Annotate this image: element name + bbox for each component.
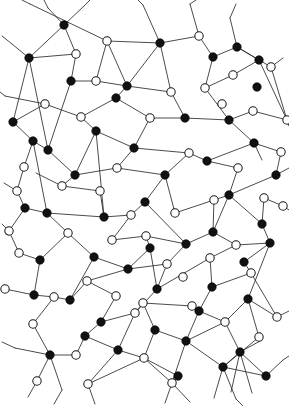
open-node [255, 333, 263, 341]
open-node [1, 285, 9, 293]
filled-node [36, 256, 44, 264]
filled-node [30, 291, 38, 299]
open-node [201, 84, 209, 92]
filled-node [81, 332, 89, 340]
filled-node [146, 244, 154, 252]
open-node [229, 71, 237, 79]
figure-root [0, 0, 289, 406]
filled-node [219, 363, 227, 371]
open-node [131, 309, 139, 317]
open-node [13, 187, 21, 195]
filled-node [203, 157, 211, 165]
open-node [249, 107, 257, 115]
open-node [188, 302, 196, 310]
filled-node [240, 258, 248, 266]
open-node [185, 149, 193, 157]
open-node [163, 260, 171, 268]
filled-node [181, 114, 189, 122]
open-node [15, 249, 23, 257]
filled-node [255, 56, 263, 64]
filled-node [151, 326, 159, 334]
open-node [64, 229, 72, 237]
open-node [247, 269, 255, 277]
filled-node [262, 372, 270, 380]
filled-node [174, 372, 182, 380]
filled-node [123, 82, 131, 90]
open-node [29, 320, 37, 328]
open-node [218, 100, 226, 108]
open-node [58, 182, 66, 190]
filled-node [29, 137, 37, 145]
open-node [167, 88, 175, 96]
open-node [103, 37, 111, 45]
open-node [279, 202, 287, 210]
filled-node [253, 83, 261, 91]
open-node [139, 299, 147, 307]
open-node [146, 114, 154, 122]
open-node [260, 194, 268, 202]
filled-node [182, 240, 190, 248]
filled-node [209, 53, 217, 61]
open-node [77, 113, 85, 121]
filled-node [66, 296, 74, 304]
open-node [283, 116, 289, 124]
filled-node [21, 204, 29, 212]
open-node [20, 163, 28, 171]
filled-node [100, 213, 108, 221]
filled-node [195, 307, 203, 315]
open-node [267, 63, 275, 71]
filled-node [266, 239, 274, 247]
filled-node [141, 198, 149, 206]
filled-node [161, 171, 169, 179]
open-node [206, 254, 214, 262]
open-node [232, 241, 240, 249]
filled-node [156, 39, 164, 47]
filled-node [182, 337, 190, 345]
open-node [221, 318, 229, 326]
open-node [83, 277, 91, 285]
filled-node [90, 253, 98, 261]
open-node [277, 148, 285, 156]
filled-node [97, 318, 105, 326]
open-node [127, 211, 135, 219]
filled-node [46, 351, 54, 359]
filled-node [9, 118, 17, 126]
open-node [112, 292, 120, 300]
open-node [84, 380, 92, 388]
filled-node [43, 209, 51, 217]
open-node [273, 313, 281, 321]
filled-node [236, 348, 244, 356]
open-node [195, 32, 203, 40]
open-node [234, 164, 242, 172]
filled-node [153, 285, 161, 293]
open-node [41, 100, 49, 108]
open-node [33, 377, 41, 385]
open-node [113, 164, 121, 172]
open-node [210, 196, 218, 204]
open-node [50, 293, 58, 301]
filled-node [124, 265, 132, 273]
filled-node [244, 295, 252, 303]
filled-node [25, 54, 33, 62]
open-node [142, 232, 150, 240]
filled-node [272, 171, 280, 179]
filled-node [225, 116, 233, 124]
open-node [171, 209, 179, 217]
open-node [92, 77, 100, 85]
filled-node [71, 171, 79, 179]
filled-node [208, 283, 216, 291]
filled-node [67, 77, 75, 85]
open-node [5, 227, 13, 235]
open-node [96, 187, 104, 195]
open-node [72, 351, 80, 359]
filled-node [130, 144, 138, 152]
filled-node [92, 127, 100, 135]
open-node [140, 354, 148, 362]
open-node [108, 236, 116, 244]
filled-node [225, 191, 233, 199]
filled-node [233, 43, 241, 51]
open-node [168, 379, 176, 387]
filled-node [114, 346, 122, 354]
open-node [72, 50, 80, 58]
filled-node [60, 21, 68, 29]
